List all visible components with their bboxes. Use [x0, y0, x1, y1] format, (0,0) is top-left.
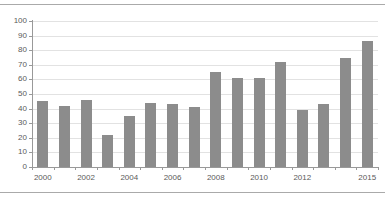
- bar-2003: [102, 135, 113, 167]
- y-tick-label-20: 20: [18, 134, 27, 142]
- bar-2001: [59, 106, 70, 167]
- x-tick-3: [97, 167, 98, 170]
- bar-2009: [232, 78, 243, 167]
- y-tick-label-0: 0: [23, 163, 27, 171]
- x-axis-ticks: [32, 167, 378, 171]
- y-tick-label-80: 80: [18, 46, 27, 54]
- x-tick-4: [119, 167, 120, 170]
- y-tick-label-70: 70: [18, 61, 27, 69]
- bar-2008: [210, 72, 221, 167]
- y-tick-label-90: 90: [18, 32, 27, 40]
- bar-2004: [124, 116, 135, 167]
- x-tick-5: [140, 167, 141, 170]
- x-tick-label-2002: 2002: [77, 173, 95, 182]
- x-tick-0: [32, 167, 33, 170]
- x-tick-label-2006: 2006: [164, 173, 182, 182]
- y-axis-tick-labels: 0102030405060708090100: [0, 21, 27, 167]
- x-tick-6: [162, 167, 163, 170]
- bar-2015: [362, 41, 373, 167]
- bar-2010: [254, 78, 265, 167]
- top-divider-rule: [0, 4, 385, 5]
- bar-2014: [340, 58, 351, 168]
- x-tick-14: [335, 167, 336, 170]
- x-tick-13: [313, 167, 314, 170]
- y-tick-label-30: 30: [18, 119, 27, 127]
- x-tick-9: [227, 167, 228, 170]
- y-tick-label-100: 100: [14, 17, 27, 25]
- x-tick-10: [248, 167, 249, 170]
- bars-group: [32, 21, 378, 167]
- x-tick-7: [183, 167, 184, 170]
- y-tick-label-10: 10: [18, 148, 27, 156]
- bar-2013: [318, 104, 329, 167]
- bar-2000: [37, 101, 48, 167]
- bar-2007: [189, 107, 200, 167]
- bar-2002: [81, 100, 92, 167]
- x-tick-11: [270, 167, 271, 170]
- x-tick-label-2015: 2015: [358, 173, 376, 182]
- x-tick-1: [54, 167, 55, 170]
- bar-2006: [167, 104, 178, 167]
- bar-2005: [145, 103, 156, 167]
- x-tick-2: [75, 167, 76, 170]
- x-tick-label-2012: 2012: [293, 173, 311, 182]
- bar-chart-figure: 0102030405060708090100 20002002200420062…: [0, 0, 385, 209]
- bottom-divider-rule: [0, 192, 385, 193]
- x-tick-8: [205, 167, 206, 170]
- x-tick-label-2004: 2004: [120, 173, 138, 182]
- x-tick-15: [356, 167, 357, 170]
- x-tick-12: [292, 167, 293, 170]
- y-tick-label-50: 50: [18, 90, 27, 98]
- bar-2011: [275, 62, 286, 167]
- x-tick-label-2000: 2000: [34, 173, 52, 182]
- bar-2012: [297, 110, 308, 167]
- x-tick-16: [378, 167, 379, 170]
- x-tick-label-2010: 2010: [250, 173, 268, 182]
- x-tick-label-2008: 2008: [207, 173, 225, 182]
- y-tick-label-60: 60: [18, 75, 27, 83]
- y-tick-label-40: 40: [18, 105, 27, 113]
